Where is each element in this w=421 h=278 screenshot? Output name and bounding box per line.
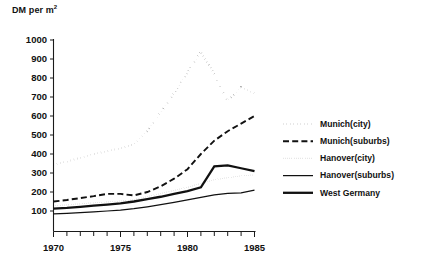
y-tick-label: 500 (31, 129, 47, 140)
x-tick-label: 1975 (110, 242, 132, 253)
chart-canvas: 1002003004005006007008009001000 19701975… (0, 0, 421, 278)
x-tick-label: 1980 (177, 242, 198, 253)
y-tick-label: 700 (31, 91, 47, 102)
x-axis-ticks: 1970197519801985 (43, 232, 266, 253)
y-axis-title: DM per m2 (12, 4, 57, 15)
series-line-hanover-city (54, 175, 255, 206)
series-line-hanover-suburbs (54, 190, 255, 214)
legend-label: Hanover(city) (320, 153, 375, 163)
legend-label: Munich(suburbs) (320, 136, 390, 146)
y-tick-label: 200 (31, 186, 47, 197)
series-line-west-germany (54, 165, 255, 208)
chart-series (54, 51, 255, 213)
x-tick-label: 1970 (43, 242, 64, 253)
series-line-munich-city (54, 51, 255, 164)
legend-label: Hanover(suburbs) (320, 170, 394, 180)
y-tick-label: 300 (31, 167, 47, 178)
y-tick-label: 600 (31, 110, 47, 121)
legend-label: Munich(city) (320, 119, 371, 129)
y-tick-label: 1000 (26, 34, 47, 45)
y-tick-label: 900 (31, 53, 47, 64)
legend-label: West Germany (320, 188, 380, 198)
y-axis-ticks: 1002003004005006007008009001000 (26, 34, 54, 216)
y-tick-label: 100 (31, 205, 47, 216)
y-tick-label: 800 (31, 72, 47, 83)
chart-legend: Munich(city)Munich(suburbs)Hanover(city)… (283, 119, 394, 198)
y-axis-title-text: DM per m2 (12, 5, 57, 15)
price-per-square-meter-chart: DM per m2 100200300400500600700800900100… (0, 0, 421, 278)
series-line-munich-suburbs (54, 116, 255, 202)
y-tick-label: 400 (31, 148, 47, 159)
x-tick-label: 1985 (244, 242, 266, 253)
